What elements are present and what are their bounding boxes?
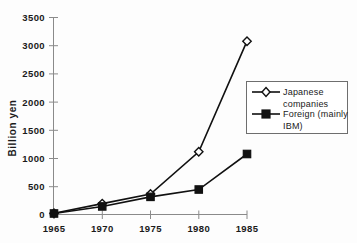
legend-label-2-line1: Foreign (mainly (283, 109, 348, 119)
x-tick-label: 1975 (139, 223, 162, 234)
data-point-filled-square (50, 210, 57, 217)
line-chart: 3500 3000 2500 2000 1500 1000 500 0 Bill… (0, 0, 357, 243)
series-line-japanese-companies (54, 41, 247, 213)
y-tick-label: 2500 (22, 68, 45, 79)
x-axis-tick-labels: 1965 1970 1975 1980 1985 (43, 223, 259, 234)
filled-square-icon (262, 110, 270, 118)
series-markers-foreign-ibm (50, 150, 250, 217)
y-axis-title: Billion yen (7, 99, 18, 156)
y-tick-label: 1000 (22, 153, 45, 164)
data-point-open-diamond (243, 37, 251, 45)
chart-legend: Japanese companies Foreign (mainly IBM) (247, 82, 349, 134)
series-markers-japanese-companies (50, 37, 251, 217)
y-tick-label: 1500 (22, 125, 45, 136)
series-line-foreign-ibm (54, 154, 247, 214)
x-tick-label: 1980 (187, 223, 210, 234)
data-point-filled-square (99, 203, 106, 210)
y-tick-label: 2000 (22, 97, 45, 108)
x-tick-label: 1965 (43, 223, 66, 234)
x-tick-label: 1985 (236, 223, 259, 234)
chart-canvas: 3500 3000 2500 2000 1500 1000 500 0 Bill… (0, 0, 357, 243)
x-tick-label: 1970 (91, 223, 114, 234)
data-point-filled-square (243, 150, 250, 157)
y-tick-label: 3500 (22, 12, 45, 23)
y-tick-label: 0 (39, 209, 45, 220)
legend-label-2-line2: IBM) (283, 121, 303, 131)
y-tick-label: 500 (28, 181, 45, 192)
data-point-filled-square (147, 193, 154, 200)
y-axis-tick-labels: 3500 3000 2500 2000 1500 1000 500 0 (22, 12, 45, 220)
y-tick-label: 3000 (22, 40, 45, 51)
data-point-filled-square (195, 186, 202, 193)
legend-label-1-line1: Japanese (283, 87, 324, 97)
legend-label-1-line2: companies (283, 99, 329, 109)
